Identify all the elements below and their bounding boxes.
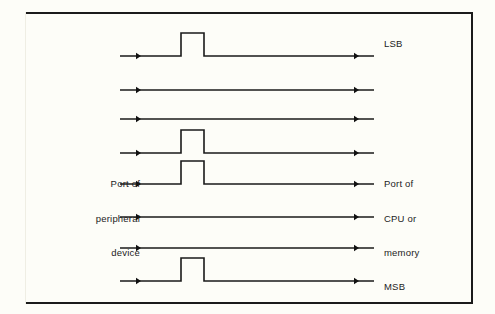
lsb-label-text: LSB [384,38,403,49]
msb-label: MSB [384,281,405,293]
direction-arrowhead [136,53,141,59]
source-port-line-2: peripheral [20,213,140,225]
direction-arrowhead [354,53,359,59]
destination-port-line-2: CPU or [384,213,420,225]
destination-port-line-1: Port of [384,178,420,190]
msb-label-text: MSB [384,281,405,292]
direction-arrowhead [354,245,359,251]
direction-arrowhead [136,116,141,122]
figure-page: LSB MSB Port of CPU or memory Port of pe… [0,0,495,314]
destination-port-label: Port of CPU or memory [384,155,420,282]
direction-arrowhead [136,87,141,93]
direction-arrowhead [354,181,359,187]
bit-line [120,130,374,153]
direction-arrowhead [354,87,359,93]
bit-line [120,33,374,56]
lsb-label: LSB [384,38,403,50]
direction-arrowhead [354,116,359,122]
bit-line [120,161,374,184]
direction-arrowhead [354,150,359,156]
direction-arrowhead [354,214,359,220]
bit-line-group [120,33,374,284]
destination-port-line-3: memory [384,247,420,259]
bit-line [120,258,374,281]
source-port-line-3: device [20,247,140,259]
source-port-line-1: Port of [20,178,140,190]
source-port-label: Port of peripheral device [20,155,140,282]
direction-arrowhead [354,278,359,284]
